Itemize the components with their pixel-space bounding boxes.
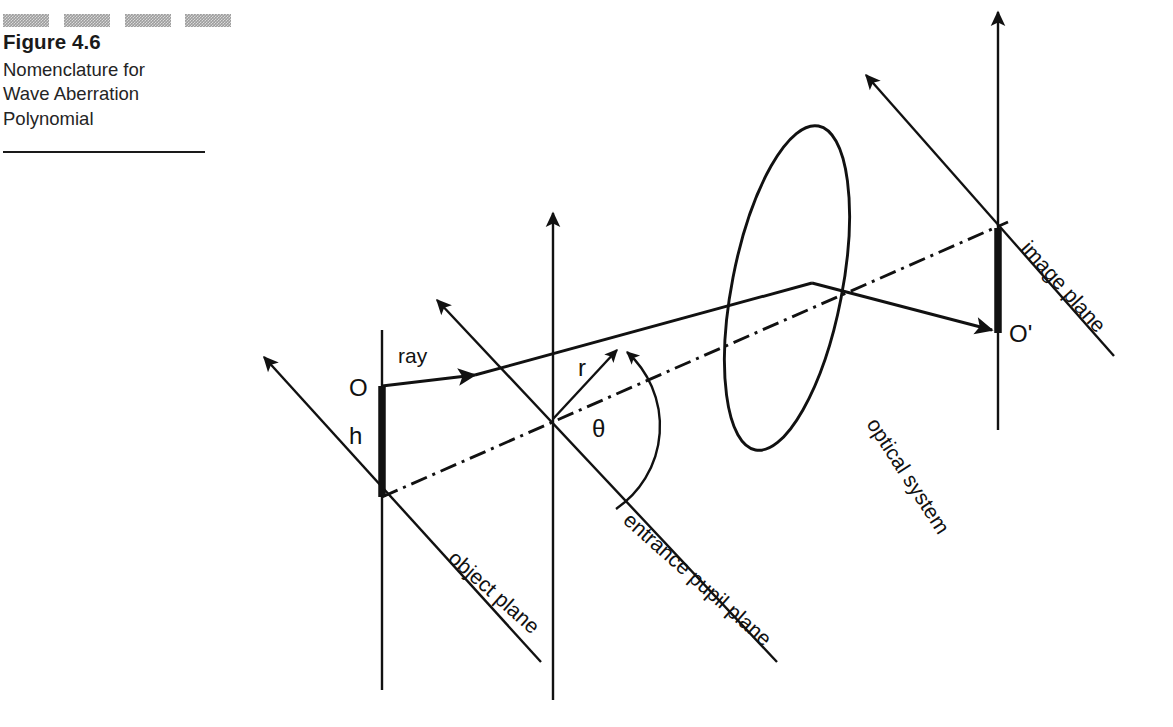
optical-axis-group (382, 222, 1008, 497)
image-point-label: O' (1009, 320, 1032, 347)
optical-system-label: optical system (863, 414, 955, 538)
pupil-azimuth-arc (616, 352, 660, 509)
optical-system-group: optical system (702, 116, 955, 538)
pupil-radius-label: r (578, 354, 586, 381)
object-height-label: h (349, 422, 362, 449)
optical-axis-dashdot-line (382, 222, 1008, 497)
object-plane-diagonal-axis (264, 357, 541, 662)
pupil-azimuth-label: θ (592, 415, 605, 442)
object-point-label: O (349, 374, 368, 401)
object-plane-label: object plane (444, 546, 544, 638)
ray-label: ray (398, 344, 428, 367)
entrance-pupil-plane-group: r θ entrance pupil plane (437, 213, 777, 700)
optical-system-diagram: O h object plane r θ entrance pupil plan… (0, 0, 1173, 727)
image-plane-group: O' image plane (866, 12, 1114, 430)
optical-system-ellipse (702, 116, 873, 461)
ray-segment-object-to-pupil-arrow (382, 375, 475, 386)
ray-path-group: ray (382, 283, 992, 386)
entrance-pupil-plane-label: entrance pupil plane (619, 508, 776, 651)
ray-segment-pupil-to-lens (475, 283, 812, 375)
